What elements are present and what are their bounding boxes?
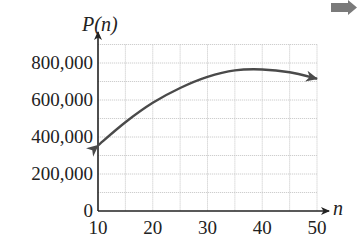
x-tick-labels: 1020304050 [89,217,327,238]
y-tick-labels: 0200,000400,000600,000800,000 [31,52,93,221]
y-tick-label: 600,000 [31,89,93,110]
x-tick-label: 30 [198,217,217,238]
y-tick-label: 400,000 [31,126,93,147]
x-tick-label: 10 [89,217,108,238]
x-tick-label: 20 [143,217,162,238]
x-axis-title: n [333,197,343,219]
corner-arrow-icon [331,0,357,15]
x-tick-label: 50 [308,217,327,238]
y-tick-label: 800,000 [31,52,93,73]
y-tick-label: 200,000 [31,163,93,184]
grid [98,45,317,212]
y-axis-title: P(n) [81,13,118,36]
chart: P(n) n 0200,000400,000600,000800,000 102… [0,0,357,249]
x-tick-label: 40 [253,217,272,238]
